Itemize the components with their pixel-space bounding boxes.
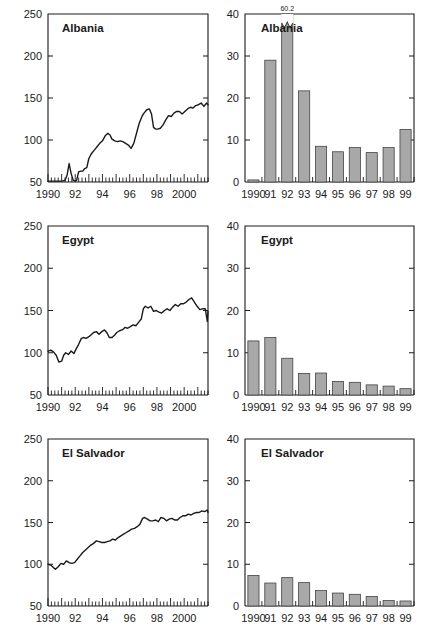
y-tick-label: 150 (24, 92, 42, 104)
plot-frame (48, 226, 208, 395)
x-tick-label: 94 (96, 612, 108, 624)
bar (349, 594, 360, 606)
x-tick-label: 92 (69, 612, 81, 624)
x-tick-label: 99 (399, 188, 411, 200)
x-tick-label: 98 (151, 612, 163, 624)
x-tick-label: 98 (151, 188, 163, 200)
bar-value-label: 60.2 (280, 5, 294, 12)
plot-frame (245, 439, 414, 606)
bar (349, 148, 360, 182)
y-tick-label: 30 (227, 475, 239, 487)
x-tick-label: 94 (96, 401, 108, 413)
plot-frame (48, 14, 208, 182)
x-tick-label: 91 (264, 401, 276, 413)
y-tick-label: 10 (227, 558, 239, 570)
y-tick-label: 150 (24, 305, 42, 317)
bar (349, 382, 360, 395)
y-tick-label: 40 (227, 433, 239, 445)
data-series-line (48, 298, 208, 362)
x-tick-label: 1990 (36, 401, 60, 413)
y-tick-label: 200 (24, 50, 42, 62)
x-tick-label: 97 (366, 188, 378, 200)
bar (400, 389, 411, 395)
x-tick-label: 1990 (241, 401, 265, 413)
y-tick-label: 20 (227, 517, 239, 529)
bar (299, 373, 310, 395)
bar (265, 338, 276, 395)
x-tick-label: 1990 (36, 612, 60, 624)
x-tick-label: 99 (399, 612, 411, 624)
y-tick-label: 0 (233, 389, 239, 401)
x-tick-label: 91 (264, 612, 276, 624)
bar (332, 593, 343, 606)
x-tick-label: 94 (315, 188, 327, 200)
panel-title: Albania (62, 22, 104, 34)
panel-title: Egypt (62, 234, 94, 246)
x-tick-label: 92 (281, 188, 293, 200)
x-tick-label: 1990 (241, 188, 265, 200)
x-tick-label: 93 (298, 188, 310, 200)
bar (315, 591, 326, 606)
bar (315, 146, 326, 182)
x-tick-label: 1990 (36, 188, 60, 200)
bar (282, 14, 293, 182)
panel-elsalvador-bar: 0102030401990919293949596979899El Salvad… (214, 425, 424, 636)
x-tick-label: 99 (399, 401, 411, 413)
x-tick-label: 97 (366, 401, 378, 413)
y-tick-label: 50 (30, 600, 42, 612)
y-tick-label: 250 (24, 220, 42, 232)
panel-egypt-bar: 0102030401990919293949596979899Egypt (214, 212, 424, 425)
bar (366, 385, 377, 395)
y-tick-label: 250 (24, 8, 42, 20)
panel-egypt-line: 501001502002501990929496982000Egypt (0, 212, 214, 425)
y-tick-label: 200 (24, 475, 42, 487)
bar (383, 386, 394, 395)
y-tick-label: 50 (30, 389, 42, 401)
y-tick-label: 30 (227, 262, 239, 274)
x-tick-label: 92 (69, 188, 81, 200)
x-tick-label: 94 (315, 401, 327, 413)
y-tick-label: 10 (227, 347, 239, 359)
x-tick-label: 93 (298, 612, 310, 624)
y-tick-label: 20 (227, 92, 239, 104)
x-tick-label: 96 (349, 188, 361, 200)
bar (332, 381, 343, 395)
panel-albania-line: 501001502002501990929496982000Albania (0, 0, 214, 212)
panel-title: Egypt (261, 234, 293, 246)
y-tick-label: 40 (227, 220, 239, 232)
data-series-line (48, 103, 208, 181)
y-tick-label: 100 (24, 134, 42, 146)
panel-title: El Salvador (62, 447, 125, 459)
x-tick-label: 98 (383, 401, 395, 413)
y-tick-label: 100 (24, 558, 42, 570)
y-tick-label: 150 (24, 517, 42, 529)
bar (299, 91, 310, 182)
x-tick-label: 96 (124, 612, 136, 624)
x-tick-label: 98 (151, 401, 163, 413)
bar (248, 576, 259, 606)
x-tick-label: 96 (349, 401, 361, 413)
bar (265, 60, 276, 182)
bar (383, 148, 394, 182)
bar (315, 373, 326, 395)
bar (248, 341, 259, 395)
bar (366, 153, 377, 182)
plot-frame (48, 439, 208, 606)
x-tick-label: 96 (124, 188, 136, 200)
data-series-line (48, 510, 208, 569)
x-tick-label: 97 (366, 612, 378, 624)
bar (366, 596, 377, 606)
panel-elsalvador-line: 501001502002501990929496982000El Salvado… (0, 425, 214, 636)
x-tick-label: 92 (69, 401, 81, 413)
bar (282, 578, 293, 606)
x-tick-label: 93 (298, 401, 310, 413)
x-tick-label: 98 (383, 612, 395, 624)
x-tick-label: 1990 (241, 612, 265, 624)
y-tick-label: 20 (227, 305, 239, 317)
bar (332, 152, 343, 182)
x-tick-label: 92 (281, 612, 293, 624)
x-tick-label: 95 (332, 401, 344, 413)
bar (400, 130, 411, 183)
bar (400, 601, 411, 606)
panel-title: El Salvador (261, 447, 324, 459)
